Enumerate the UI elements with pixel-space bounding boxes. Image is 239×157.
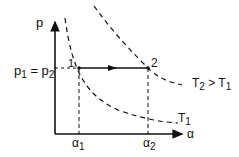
- state-point-2: [146, 66, 150, 70]
- isotherm-t2-curve: [94, 6, 182, 85]
- point2-label: 2: [151, 56, 158, 70]
- point1-label: 1: [68, 57, 74, 69]
- curve-t2-label: T2 > T1: [192, 76, 232, 92]
- isotherm-t1-curve: [65, 18, 178, 123]
- process-direction-arrow-icon: [108, 65, 117, 71]
- alpha2-label: α2: [143, 136, 156, 152]
- x-axis-label: α: [187, 127, 194, 141]
- pressure-label: p1 = p2: [14, 63, 55, 80]
- isobaric-process-diagram: p α p1 = p2 1 2 α1 α2 T2 > T1 T1: [0, 0, 239, 157]
- state-point-1: [77, 66, 81, 70]
- alpha1-label: α1: [72, 136, 85, 152]
- y-axis-label: p: [36, 15, 43, 30]
- curve-t1-label: T1: [178, 111, 191, 127]
